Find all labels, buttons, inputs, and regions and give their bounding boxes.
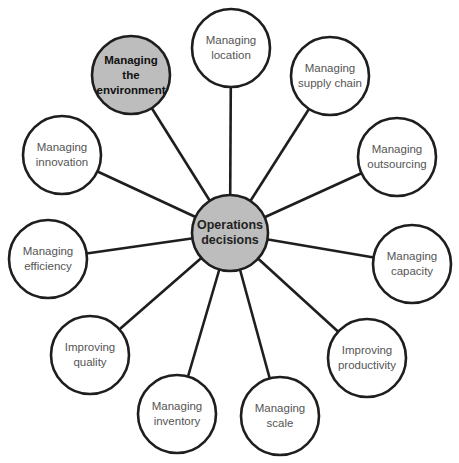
node-circle xyxy=(51,316,129,394)
operations-decisions-diagram xyxy=(0,0,459,463)
node-circle xyxy=(358,118,436,196)
node-circle xyxy=(9,220,87,298)
node-circle xyxy=(92,36,170,114)
node-circle xyxy=(241,377,319,455)
node-circles xyxy=(9,9,451,455)
node-circle xyxy=(138,375,216,453)
node-circle xyxy=(192,9,270,87)
hub-circle xyxy=(192,195,268,271)
node-circle xyxy=(23,116,101,194)
node-circle xyxy=(328,319,406,397)
node-circle xyxy=(373,225,451,303)
node-circle xyxy=(291,37,369,115)
